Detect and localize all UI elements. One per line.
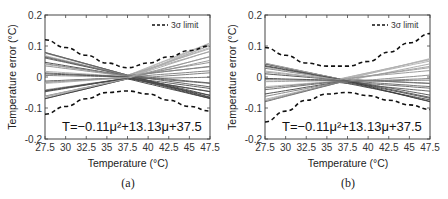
x-axis-label: Temperature (°C) [88,157,169,169]
x-tick-label: 30 [60,142,72,153]
equation-annotation: T=−0.11μ²+13.13μ+37.5 [62,119,202,134]
panel-caption: (a) [121,176,134,190]
x-tick-label: 45 [184,142,196,153]
legend-label: 3σ limit [171,20,199,30]
x-tick-label: 37.5 [118,142,138,153]
y-tick-label: -0.2 [25,134,43,145]
x-tick-label: 32.5 [297,142,317,153]
x-axis-label: Temperature (°C) [308,157,389,169]
y-tick-label: 0.1 [28,41,42,52]
x-tick-label: 37.5 [338,142,358,153]
figure: 27.53032.53537.54042.54547.50.20.10-0.1-… [0,0,448,199]
x-tick-label: 35 [101,142,113,153]
y-axis-label: Temperature error (°C) [6,24,18,130]
chart-panel-b: 27.53032.53537.54042.54547.50.20.10-0.1-… [226,10,440,191]
panel-caption: (b) [341,176,355,190]
equation-annotation: T=−0.11μ²+13.13μ+37.5 [282,119,422,134]
y-tick-label: 0.2 [28,10,42,21]
y-tick-label: 0 [36,72,42,83]
y-axis-label: Temperature error (°C) [226,24,238,130]
x-tick-label: 42.5 [379,142,399,153]
x-tick-label: 42.5 [159,142,179,153]
x-tick-label: 45 [404,142,416,153]
x-tick-label: 35 [321,142,333,153]
x-tick-label: 30 [280,142,292,153]
x-tick-label: 47.5 [200,142,220,153]
chart-panel-a: 27.53032.53537.54042.54547.50.20.10-0.1-… [6,10,220,191]
y-tick-label: 0 [256,72,262,83]
y-tick-label: 0.1 [248,41,262,52]
x-tick-label: 40 [143,142,155,153]
y-tick-label: -0.1 [245,103,263,114]
y-tick-label: 0.2 [248,10,262,21]
x-tick-label: 32.5 [77,142,97,153]
x-tick-label: 47.5 [420,142,440,153]
x-tick-label: 40 [363,142,375,153]
y-tick-label: -0.1 [25,103,43,114]
legend-label: 3σ limit [391,20,419,30]
y-tick-label: -0.2 [245,134,263,145]
